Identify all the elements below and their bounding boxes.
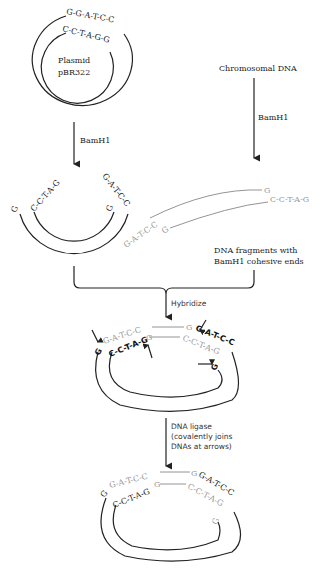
enzyme-label-right: BamH1 [258, 113, 288, 122]
final-inner-left: C-C-T-A-G [111, 487, 151, 510]
fragment-left-end: G [160, 225, 170, 236]
cut-outer-strand [20, 214, 128, 254]
fragment-caption-2: BamH1 cohesive ends [214, 257, 304, 266]
cut-right-inner: G [104, 204, 115, 213]
nick-arrow-2 [148, 345, 152, 358]
plasmid-pbr322: G-G-A-T-C-C C-C-T-A-G-G Plasmid pBR322 [32, 7, 132, 105]
ligase-label-1: DNA ligase [171, 422, 212, 431]
hybridized-molecule: G G-A-T-C-C G G-A-T-C-C C-C-T-A-G G C-C-… [92, 320, 239, 411]
hybrid-outer-left: G [93, 347, 104, 357]
dna-fragment: G-A-T-C-C G G C-C-T-A-G DNA fragments wi… [122, 186, 309, 266]
chromosomal-dna-label: Chromosomal DNA [219, 64, 297, 73]
fragment-caption-1: DNA fragments with [214, 246, 298, 255]
nick-arrow-1 [92, 330, 98, 342]
hybrid-outer-strand [96, 352, 239, 411]
plasmid-outer-seq: G-G-A-T-C-C [66, 7, 115, 24]
cut-right-outer: G-A-T-C-C [100, 172, 131, 209]
fragment-right-bottom: C-C-T-A-G [270, 195, 309, 204]
fragment-bottom-strand [170, 202, 268, 228]
ligase-label-2: (covalently joins [171, 432, 232, 441]
final-inner-strand [113, 505, 220, 550]
final-outer-left: G [99, 489, 110, 500]
recombinant-molecule: G G-A-T-C-C G G-A-T-C-C C-C-T-A-G G C-C-… [99, 469, 241, 561]
cut-left-inner: C-C-T-A-G [29, 178, 62, 213]
fragment-top-strand [150, 190, 262, 218]
cut-plasmid: G C-C-T-A-G G-A-T-C-C G [9, 172, 131, 254]
plasmid-inner-seq: C-C-T-A-G-G [62, 24, 111, 44]
cut-inner-strand [34, 212, 114, 241]
merge-bracket [74, 266, 254, 294]
hybrid-frag-bottom-start: G [146, 333, 152, 342]
recombinant-dna-diagram: G-G-A-T-C-C C-C-T-A-G-G Plasmid pBR322 B… [0, 0, 332, 574]
hybrid-inner-strand [109, 352, 222, 397]
fragment-left-seq: G-A-T-C-C [122, 220, 159, 250]
enzyme-label-left: BamH1 [80, 136, 110, 145]
hybridize-label: Hybridize [171, 299, 207, 308]
fragment-right-top: G [264, 186, 270, 195]
final-frag-top-end: G [191, 469, 197, 478]
final-frag-top: G-A-T-C-C [108, 472, 148, 490]
ligase-label-3: DNAs at arrows) [171, 442, 232, 451]
hybrid-frag-top-end: G [186, 323, 192, 332]
final-frag-bottom-start: G [154, 480, 160, 489]
cut-left-outer: G [9, 205, 20, 214]
plasmid-label: Plasmid [58, 56, 90, 65]
plasmid-name: pBR322 [58, 68, 90, 77]
